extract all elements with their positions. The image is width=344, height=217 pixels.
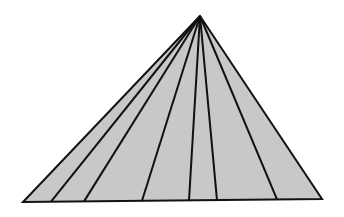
triangle-diagram: [0, 0, 344, 217]
triangle-shape: [23, 16, 322, 202]
